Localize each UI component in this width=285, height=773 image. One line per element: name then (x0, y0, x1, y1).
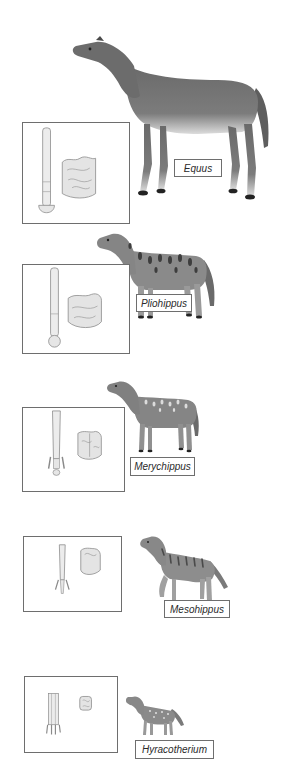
equus-bone-tooth-inset (22, 122, 130, 224)
molar-tooth-icon (81, 548, 100, 574)
stage-mesohippus: Mesohippus (0, 510, 285, 650)
stage-hyracotherium: Hyracotherium (0, 650, 285, 773)
merychippus-bone-tooth-inset (22, 407, 125, 492)
horse-icon (140, 535, 232, 605)
pliohippus-bone-tooth-inset (22, 264, 130, 354)
molar-tooth-icon (78, 431, 101, 459)
horse-icon (126, 695, 184, 737)
hyracotherium-illustration (126, 695, 184, 737)
molar-tooth-icon (80, 696, 92, 710)
molar-tooth-icon (68, 294, 101, 328)
foot-bone-icon (49, 268, 61, 347)
stage-pliohippus: Pliohippus (0, 230, 285, 370)
genus-label-equus: Equus (174, 159, 222, 177)
mesohippus-illustration (140, 535, 232, 605)
foot-bone-icon (47, 694, 61, 735)
molar-tooth-icon (62, 157, 95, 198)
genus-label-merychippus: Merychippus (130, 457, 195, 476)
mesohippus-bone-tooth-inset (23, 536, 122, 612)
foot-bone-icon (55, 545, 69, 594)
foot-bone-icon (39, 128, 55, 213)
genus-label-hyracotherium: Hyracotherium (135, 740, 214, 759)
genus-label-mesohippus: Mesohippus (164, 600, 230, 618)
stage-equus: Equus (0, 0, 285, 230)
hyracotherium-bone-tooth-inset (24, 676, 118, 753)
stage-merychippus: Merychippus (0, 370, 285, 510)
genus-label-pliohippus: Pliohippus (136, 294, 192, 312)
foot-bone-icon (49, 411, 65, 475)
